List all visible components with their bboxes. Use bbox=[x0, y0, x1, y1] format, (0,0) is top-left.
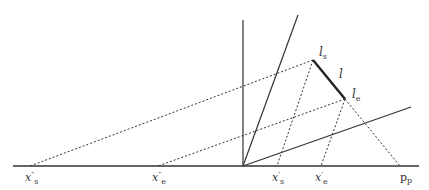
ray-le-to-pp bbox=[345, 99, 400, 166]
shallow-plane-line bbox=[243, 107, 411, 166]
label-l-e: le bbox=[352, 87, 361, 103]
ray-le-to-xpp-e bbox=[158, 99, 345, 166]
label-x-prime-e: x′e bbox=[315, 170, 328, 186]
projection-rays bbox=[30, 60, 400, 166]
steep-plane-line bbox=[243, 15, 298, 166]
label-x-prime-s: x′s bbox=[272, 170, 284, 186]
ray-ls-to-xp-s bbox=[277, 60, 313, 166]
label-l: l bbox=[339, 67, 343, 81]
solid-lines bbox=[13, 15, 419, 166]
projection-diagram: ls l le x″s x″e x′s x′e pp bbox=[0, 0, 429, 190]
ray-le-to-xp-e bbox=[321, 99, 345, 166]
label-x-double-prime-e: x″e bbox=[152, 170, 166, 186]
label-p-p: pp bbox=[400, 171, 412, 185]
label-l-s: ls bbox=[319, 45, 327, 61]
ray-ls-to-xpp-s bbox=[30, 60, 313, 166]
label-x-double-prime-s: x″s bbox=[25, 170, 38, 186]
